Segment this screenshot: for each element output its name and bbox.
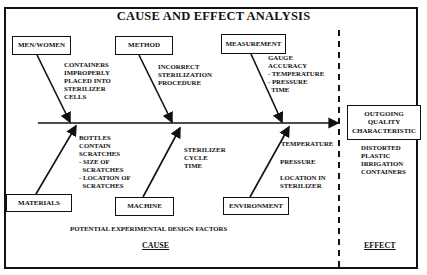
category-machine: MACHINE: [115, 197, 174, 216]
cause-text-environment-location: LOCATION IN STERILIZER: [280, 174, 326, 190]
cause-text-method: INCORRECT STERILIZATION PROCEDURE: [158, 63, 212, 87]
cause-heading: CAUSE: [142, 241, 169, 250]
category-label: MATERIALS: [18, 199, 60, 207]
effect-heading: EFFECT: [364, 241, 396, 250]
category-method: METHOD: [115, 36, 173, 55]
cause-text-environment-pressure: PRESSURE: [280, 158, 316, 166]
category-label: MEASUREMENT: [225, 40, 281, 48]
category-label: ENVIRONMENT: [229, 202, 283, 210]
factors-note: POTENTIAL EXPERIMENTAL DESIGN FACTORS: [70, 225, 227, 233]
category-men-women: MEN/WOMEN: [12, 36, 71, 55]
category-environment: ENVIRONMENT: [223, 197, 289, 215]
category-measurement: MEASUREMENT: [221, 34, 286, 54]
category-materials: MATERIALS: [6, 194, 72, 212]
cause-text-materials: BOTTLES CONTAIN SCRATCHES - SIZE OF SCRA…: [79, 134, 131, 190]
cause-text-men-women: CONTAINERS IMPROPERLY PLACED INTO STERIL…: [64, 61, 111, 101]
cause-text-environment-temperature: TEMPERATURE: [281, 140, 333, 148]
category-label: MACHINE: [127, 202, 162, 210]
cause-text-machine: STERILIZER CYCLE TIME: [184, 146, 226, 170]
category-label: METHOD: [128, 41, 160, 49]
effect-description: DISTORTED PLASTIC IRRIGATION CONTAINERS: [361, 144, 406, 176]
effect-box: OUTGOING QUALITY CHARACTERISTIC: [347, 105, 421, 140]
effect-box-label: OUTGOING QUALITY CHARACTERISTIC: [352, 110, 416, 134]
cause-text-measurement: GAUGE ACCURACY - TEMPERATURE - PRESSURE …: [268, 54, 324, 94]
category-label: MEN/WOMEN: [18, 41, 65, 49]
